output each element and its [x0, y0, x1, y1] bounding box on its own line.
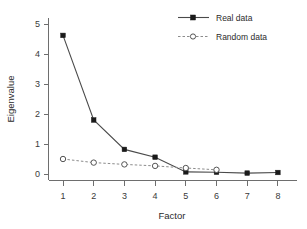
data-point-real-data	[61, 33, 66, 38]
data-point-random-data	[152, 163, 157, 168]
y-tick-label: 0	[35, 169, 40, 179]
data-point-random-data	[214, 167, 219, 172]
y-axis-ticks: 012345	[35, 19, 49, 179]
scree-plot-figure: 012345 12345678 Factor Eigenvalue Real d…	[0, 0, 307, 229]
x-axis-ticks: 12345678	[60, 181, 280, 202]
y-tick-label: 3	[35, 79, 40, 89]
legend-label-random-data: Random data	[216, 32, 267, 42]
data-point-random-data	[60, 156, 65, 161]
y-tick-label: 4	[35, 49, 40, 59]
x-tick-label: 5	[183, 191, 188, 201]
x-tick-label: 7	[245, 191, 250, 201]
series-line-random-data	[63, 159, 217, 170]
legend-item-random-data: Random data	[178, 32, 267, 42]
legend: Real data Random data	[178, 13, 267, 42]
data-point-random-data	[183, 165, 188, 170]
x-tick-label: 3	[122, 191, 127, 201]
data-series-layer	[60, 33, 280, 175]
x-tick-label: 2	[91, 191, 96, 201]
x-tick-label: 6	[214, 191, 219, 201]
x-tick-label: 8	[275, 191, 280, 201]
y-tick-label: 1	[35, 139, 40, 149]
legend-marker-real	[191, 15, 196, 20]
y-tick-label: 2	[35, 109, 40, 119]
legend-label-real-data: Real data	[216, 13, 253, 23]
x-tick-label: 1	[60, 191, 65, 201]
x-tick-label: 4	[153, 191, 158, 201]
data-point-real-data	[122, 147, 127, 152]
data-point-real-data	[91, 118, 96, 123]
plot-canvas: 012345 12345678 Factor Eigenvalue Real d…	[0, 0, 307, 229]
y-axis-title: Eigenvalue	[5, 75, 16, 122]
data-point-real-data	[245, 171, 250, 176]
x-axis-title: Factor	[159, 210, 186, 221]
data-point-real-data	[153, 155, 158, 160]
data-point-random-data	[122, 162, 127, 167]
data-point-random-data	[91, 160, 96, 165]
y-tick-label: 5	[35, 19, 40, 29]
series-line-real-data	[63, 35, 278, 173]
legend-marker-random	[190, 34, 195, 39]
legend-item-real-data: Real data	[178, 13, 253, 23]
data-point-real-data	[276, 170, 281, 175]
